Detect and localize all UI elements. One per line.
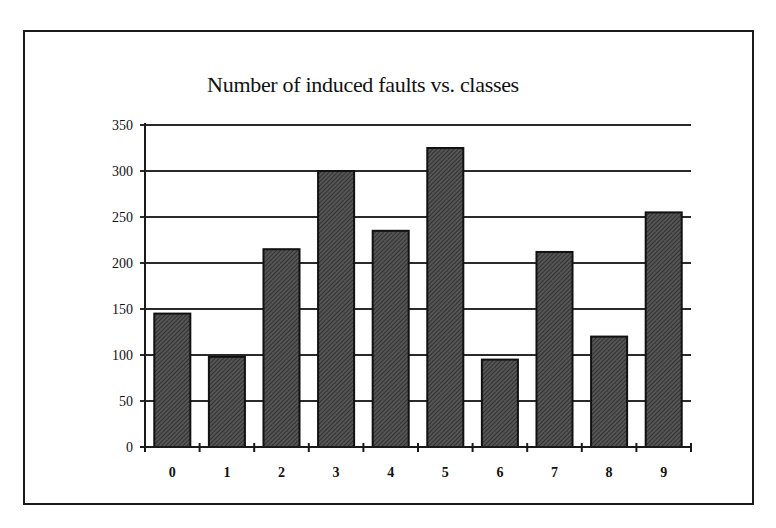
bar-2 — [263, 249, 299, 447]
bar-3 — [318, 171, 354, 447]
y-axis-labels: 050100150200250300350 — [112, 118, 133, 455]
bar-6 — [482, 360, 518, 447]
x-tick-label: 8 — [606, 465, 613, 480]
y-tick-label: 0 — [126, 440, 133, 455]
x-axis-labels: 0123456789 — [169, 465, 667, 480]
x-tick-label: 6 — [496, 465, 503, 480]
y-tick-label: 200 — [112, 256, 133, 271]
bar-7 — [536, 252, 572, 447]
y-tick-label: 50 — [119, 394, 133, 409]
x-tick-label: 4 — [387, 465, 394, 480]
y-tick-label: 250 — [112, 210, 133, 225]
bar-9 — [646, 212, 682, 447]
bar-1 — [209, 357, 245, 447]
x-tick-label: 9 — [660, 465, 667, 480]
x-tick-label: 2 — [278, 465, 285, 480]
bar-4 — [373, 231, 409, 447]
x-tick-label: 0 — [169, 465, 176, 480]
y-tick-label: 150 — [112, 302, 133, 317]
x-tick-label: 3 — [333, 465, 340, 480]
bars — [154, 148, 681, 447]
bar-chart-plot: 050100150200250300350 0123456789 — [0, 0, 776, 528]
x-tick-label: 7 — [551, 465, 558, 480]
bar-8 — [591, 337, 627, 447]
y-tick-label: 100 — [112, 348, 133, 363]
x-tick-label: 5 — [442, 465, 449, 480]
bar-5 — [427, 148, 463, 447]
y-tick-label: 350 — [112, 118, 133, 133]
x-tick-label: 1 — [223, 465, 230, 480]
y-tick-label: 300 — [112, 164, 133, 179]
bar-0 — [154, 314, 190, 447]
